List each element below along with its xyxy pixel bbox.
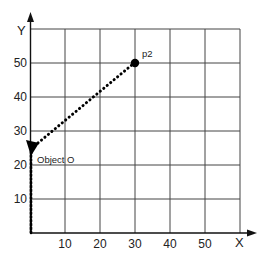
y-tick-30: 30 (14, 124, 28, 138)
x-tick-30: 30 (128, 237, 142, 251)
axes (27, 12, 257, 237)
y-axis-label: Y (17, 23, 26, 38)
object-o-label: Object O (37, 154, 75, 165)
x-tick-10: 10 (58, 237, 72, 251)
y-tick-20: 20 (14, 158, 28, 172)
y-tick-40: 40 (14, 90, 28, 104)
p2-label: p2 (142, 48, 153, 59)
x-tick-labels: 10 20 30 40 50 (58, 237, 212, 251)
x-tick-50: 50 (198, 237, 212, 251)
x-tick-20: 20 (93, 237, 107, 251)
p2-point-icon (131, 59, 139, 67)
y-tick-10: 10 (14, 192, 28, 206)
y-tick-50: 50 (14, 56, 28, 70)
y-axis-arrow-icon (27, 12, 34, 22)
x-axis-label: X (235, 235, 244, 250)
y-tick-labels: 50 40 30 20 10 (14, 56, 28, 206)
x-axis-arrow-icon (247, 230, 257, 237)
coordinate-diagram: Y X 10 20 30 40 50 50 40 30 20 10 p2 Obj… (0, 0, 267, 255)
x-tick-40: 40 (163, 237, 177, 251)
